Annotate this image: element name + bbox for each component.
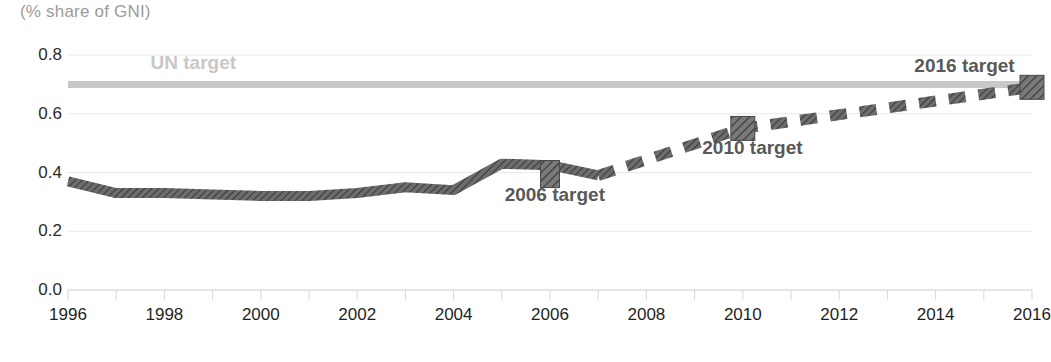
x-axis-tick-label: 2016	[1013, 305, 1051, 325]
chart-annotation-label: 2016 target	[914, 55, 1014, 77]
x-axis-tick-label: 2006	[531, 305, 569, 325]
x-axis-tick-label: 2004	[435, 305, 473, 325]
x-axis-tick-label: 2008	[627, 305, 665, 325]
x-axis-tick-label: 1996	[49, 305, 87, 325]
x-axis-tick-label: 2014	[917, 305, 955, 325]
x-axis-tick-label: 2002	[338, 305, 376, 325]
chart-annotation-label: UN target	[151, 52, 237, 74]
chart-annotation-label: 2010 target	[702, 137, 802, 159]
x-axis-tick-label: 1998	[145, 305, 183, 325]
x-axis-tick-label: 2000	[242, 305, 280, 325]
x-axis-tick-label: 2012	[820, 305, 858, 325]
chart-annotation-label: 2006 target	[505, 184, 605, 206]
x-axis-tick-label: 2010	[724, 305, 762, 325]
